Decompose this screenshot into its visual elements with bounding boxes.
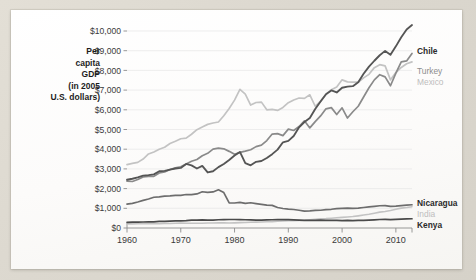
- x-tick-label: 1990: [278, 235, 298, 245]
- x-tick-label: 1960: [117, 235, 137, 245]
- gridlines: [127, 31, 412, 208]
- x-axis: [127, 223, 412, 233]
- series-label-mexico: Mexico: [417, 77, 444, 87]
- series-label-turkey: Turkey: [417, 66, 443, 76]
- y-axis-title: PercapitaGDP(in 2005U.S. dollars): [50, 46, 100, 102]
- y-tick-label: $1,000: [95, 203, 122, 213]
- x-tick-label: 1970: [171, 235, 191, 245]
- line-chart-figure: $0$1,000$2,000$3,000$4,000$5,000$6,000$7…: [11, 10, 462, 269]
- series-label-chile: Chile: [417, 46, 438, 56]
- y-tick-label: $5,000: [95, 125, 122, 135]
- y-axis-title-line: (in 2005: [68, 81, 100, 91]
- x-axis-tick-labels: 196019701980199020002010: [117, 235, 406, 245]
- x-tick-label: 2000: [332, 235, 352, 245]
- y-tick-label: $2,000: [95, 184, 122, 194]
- series-line-nicaragua: [127, 190, 412, 211]
- data-series: [127, 25, 412, 224]
- y-tick-label: $0: [111, 223, 121, 233]
- series-label-kenya: Kenya: [417, 220, 442, 230]
- y-tick-label: $6,000: [95, 105, 122, 115]
- screenshot-root: $0$1,000$2,000$3,000$4,000$5,000$6,000$7…: [0, 0, 476, 280]
- series-label-india: India: [417, 209, 436, 219]
- y-axis-title-line: Per: [86, 46, 100, 56]
- y-axis-title-line: U.S. dollars): [50, 92, 100, 102]
- y-tick-label: $4,000: [95, 144, 122, 154]
- y-tick-label: $10,000: [90, 26, 121, 36]
- y-tick-label: $3,000: [95, 164, 122, 174]
- figure-card-surface: $0$1,000$2,000$3,000$4,000$5,000$6,000$7…: [11, 10, 462, 269]
- figure-card: $0$1,000$2,000$3,000$4,000$5,000$6,000$7…: [11, 10, 462, 269]
- x-tick-label: 2010: [386, 235, 406, 245]
- series-line-chile: [127, 25, 412, 180]
- series-labels: ChileTurkeyMexicoNicaraguaIndiaKenya: [417, 46, 458, 230]
- series-label-nicaragua: Nicaragua: [417, 198, 458, 208]
- x-tick-label: 1980: [225, 235, 245, 245]
- y-axis-title-line: capita: [75, 58, 100, 68]
- chart-canvas: $0$1,000$2,000$3,000$4,000$5,000$6,000$7…: [11, 10, 462, 269]
- y-axis-title-line: GDP: [82, 69, 101, 79]
